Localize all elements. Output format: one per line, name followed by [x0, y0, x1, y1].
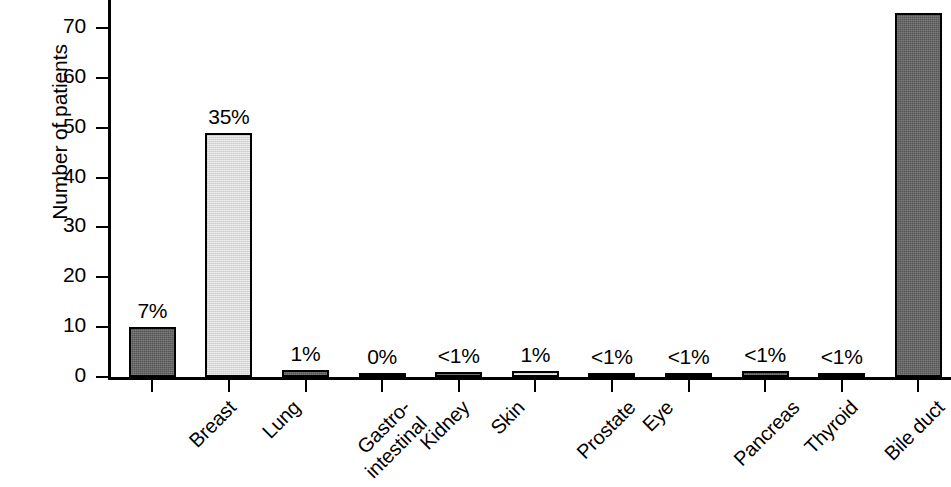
- bar: [359, 373, 406, 377]
- x-axis-category-label: Skin: [486, 396, 529, 439]
- x-axis-category-label: Prostate: [573, 396, 641, 464]
- x-axis-category-label: Pancreas: [729, 396, 804, 471]
- y-axis-tick-label: 50: [24, 114, 86, 138]
- x-axis-category-label: Breast: [185, 396, 241, 452]
- bar: [435, 372, 482, 377]
- bar: [512, 371, 559, 377]
- y-axis-tick-label: 60: [24, 64, 86, 88]
- x-axis-tick: [534, 380, 536, 392]
- y-axis-tick: [96, 27, 109, 29]
- y-axis-tick-label: 20: [24, 263, 86, 287]
- x-axis-tick: [841, 380, 843, 392]
- y-axis-tick-label: 30: [24, 213, 86, 237]
- bar-chart-figure: Number of patients 010203040506070 7%35%…: [0, 0, 951, 487]
- x-axis-tick: [381, 380, 383, 392]
- y-axis-tick: [96, 276, 109, 278]
- y-axis-tick: [96, 226, 109, 228]
- bar: [742, 371, 789, 377]
- bar: [665, 373, 712, 377]
- bar: [588, 373, 635, 377]
- y-axis-tick: [96, 376, 109, 378]
- bar: [282, 370, 329, 377]
- x-axis-tick: [228, 380, 230, 392]
- x-axis-tick: [764, 380, 766, 392]
- y-axis-tick: [96, 77, 109, 79]
- bar: [895, 13, 942, 377]
- x-axis-line: [108, 377, 951, 380]
- x-axis-tick: [688, 380, 690, 392]
- x-axis-tick: [917, 380, 919, 392]
- y-axis-tick: [96, 127, 109, 129]
- x-axis-tick: [151, 380, 153, 392]
- y-axis-tick-label: 10: [24, 313, 86, 337]
- y-axis-tick-label: 0: [24, 363, 86, 387]
- bar-value-label: 7%: [92, 299, 212, 323]
- y-axis-tick: [96, 326, 109, 328]
- bar-value-label: 35%: [169, 105, 289, 129]
- bar-value-label: <1%: [782, 345, 902, 369]
- y-axis-tick-label: 40: [24, 164, 86, 188]
- x-axis-tick: [458, 380, 460, 392]
- y-axis-tick: [96, 177, 109, 179]
- x-axis-category-label: Lung: [258, 396, 305, 443]
- x-axis-tick: [305, 380, 307, 392]
- bar: [205, 133, 252, 377]
- x-axis-category-label: Bile duct: [880, 396, 949, 465]
- y-axis-tick-label: 70: [24, 14, 86, 38]
- x-axis-tick: [611, 380, 613, 392]
- x-axis-category-label: Thyroid: [800, 396, 862, 458]
- x-axis-category-label: Eye: [638, 396, 678, 436]
- bar: [129, 327, 176, 377]
- bar: [818, 373, 865, 377]
